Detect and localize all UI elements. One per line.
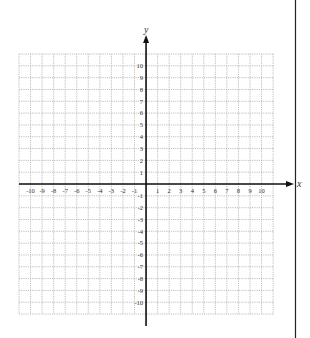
x-tick-label: -1: [132, 187, 137, 194]
x-tick-label: -9: [39, 187, 44, 194]
x-tick-label: 2: [168, 187, 171, 194]
y-tick-label: 5: [140, 121, 143, 128]
y-tick-label: -2: [138, 204, 143, 211]
x-axis-label: x: [296, 178, 302, 189]
x-tick-label: 10: [258, 187, 265, 194]
y-tick-label: -4: [138, 228, 144, 235]
y-tick-label: -5: [138, 239, 143, 246]
axes: x y: [19, 24, 302, 326]
y-tick-label: -6: [138, 251, 144, 258]
x-tick-label: 8: [237, 187, 240, 194]
x-tick-label: -5: [86, 187, 91, 194]
y-tick-label: 2: [140, 157, 143, 164]
y-axis-label: y: [143, 24, 149, 35]
y-tick-label: -8: [138, 275, 143, 282]
y-tick-label: 10: [137, 62, 144, 69]
y-tick-label: -10: [134, 299, 143, 306]
y-tick-label: -7: [138, 263, 144, 270]
x-tick-label: -2: [120, 187, 125, 194]
x-tick-label: 5: [202, 187, 205, 194]
y-tick-label: -1: [138, 192, 143, 199]
coordinate-plane: x y -10-9-8-7-6-5-4-3-2-112345678910 109…: [0, 0, 310, 338]
x-tick-label: -8: [51, 187, 56, 194]
y-axis-arrow-icon: [143, 35, 149, 43]
y-tick-label: 1: [140, 169, 143, 176]
x-tick-label: -10: [26, 187, 35, 194]
y-tick-label: 8: [140, 86, 143, 93]
y-tick-label: 3: [140, 145, 143, 152]
coordinate-plane-diagram: x y -10-9-8-7-6-5-4-3-2-112345678910 109…: [0, 0, 310, 338]
x-tick-label: -4: [97, 187, 103, 194]
y-tick-label: -3: [138, 216, 143, 223]
x-tick-label: 3: [179, 187, 182, 194]
x-tick-label: -7: [62, 187, 68, 194]
x-tick-label: 6: [214, 187, 218, 194]
x-tick-label: -6: [74, 187, 80, 194]
x-axis-arrow-icon: [286, 181, 294, 187]
x-tick-label: 4: [191, 187, 195, 194]
y-tick-label: -9: [138, 287, 143, 294]
x-tick-label: 1: [156, 187, 159, 194]
x-tick-label: 7: [225, 187, 229, 194]
x-tick-label: 9: [248, 187, 251, 194]
x-tick-label: -3: [109, 187, 114, 194]
y-tick-label: 9: [140, 74, 143, 81]
